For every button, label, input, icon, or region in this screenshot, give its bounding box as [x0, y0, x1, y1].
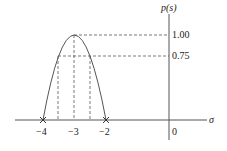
x-axis-label: σ	[209, 115, 214, 125]
tick-minus4: −4	[36, 127, 47, 137]
tick-zero: 0	[172, 127, 177, 137]
root-locus-plot	[0, 0, 227, 151]
tick-minus3: −3	[68, 127, 79, 137]
tick-minus2: −2	[99, 127, 110, 137]
parabola-curve	[43, 35, 106, 120]
y-axis-label: p(s)	[161, 3, 177, 13]
tick-label-075: 0.75	[172, 51, 190, 61]
guide-lines	[58, 35, 169, 120]
tick-label-1: 1.00	[172, 30, 190, 40]
